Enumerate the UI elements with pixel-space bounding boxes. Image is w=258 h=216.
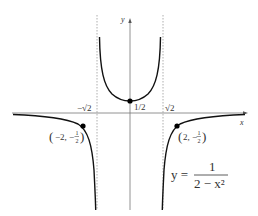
point-left bbox=[80, 123, 85, 128]
point-right bbox=[174, 123, 179, 128]
y-intercept-label: 1/2 bbox=[134, 102, 146, 112]
svg-text:): ) bbox=[202, 129, 206, 144]
svg-text:): ) bbox=[80, 129, 84, 144]
pos-sqrt2-label: √2 bbox=[165, 103, 174, 113]
point-y-intercept bbox=[127, 98, 132, 103]
svg-text:1: 1 bbox=[209, 159, 216, 174]
neg-sqrt2-label: −√2 bbox=[77, 103, 92, 113]
svg-text:2: 2 bbox=[198, 138, 201, 144]
svg-text:y =: y = bbox=[171, 167, 188, 182]
svg-text:−2, −: −2, − bbox=[55, 132, 74, 142]
function-graph: x y −√2 √2 1/2 ( −2, − 1 2 ) ( 2, − 1 2 bbox=[0, 0, 258, 216]
svg-text:(: ( bbox=[49, 129, 53, 144]
svg-text:1: 1 bbox=[198, 130, 201, 136]
x-axis-label: x bbox=[239, 118, 244, 127]
svg-text:2 − x²: 2 − x² bbox=[194, 176, 225, 191]
svg-text:1: 1 bbox=[76, 130, 79, 136]
right-point-label: ( 2, − 1 2 ) bbox=[178, 129, 206, 144]
svg-text:2: 2 bbox=[76, 138, 79, 144]
svg-text:(: ( bbox=[178, 129, 182, 144]
left-point-label: ( −2, − 1 2 ) bbox=[49, 129, 84, 144]
y-axis-arrow-icon bbox=[128, 18, 131, 23]
equation-label: y = 1 2 − x² bbox=[171, 159, 228, 191]
svg-text:2, −: 2, − bbox=[183, 132, 197, 142]
y-axis-label: y bbox=[120, 15, 125, 24]
